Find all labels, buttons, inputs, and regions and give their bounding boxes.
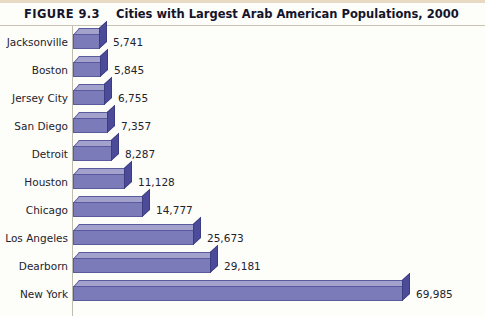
bar-value-label: 5,741 (113, 28, 143, 56)
bar-row: Chicago14,777 (0, 196, 485, 224)
bar-3d (73, 252, 211, 280)
figure-title: Cities with Largest Arab American Popula… (116, 7, 459, 21)
category-label: Jacksonville (0, 28, 68, 56)
bar-front-face (73, 34, 100, 49)
bar-row: New York69,985 (0, 280, 485, 308)
bar-3d (73, 196, 143, 224)
bar-front-face (73, 202, 143, 217)
category-label: New York (0, 280, 68, 308)
category-label: Dearborn (0, 252, 68, 280)
bar-value-label: 5,845 (114, 56, 144, 84)
bar-row: Los Angeles25,673 (0, 224, 485, 252)
bar-value-label: 29,181 (224, 252, 261, 280)
category-label: Boston (0, 56, 68, 84)
bar-row: Jacksonville5,741 (0, 28, 485, 56)
bar-value-label: 6,755 (118, 84, 148, 112)
category-label: Jersey City (0, 84, 68, 112)
bar-3d (73, 224, 194, 252)
bar-front-face (73, 286, 403, 301)
bar-value-label: 69,985 (416, 280, 453, 308)
figure-number: FIGURE 9.3 (24, 7, 100, 21)
chart-plot-area: Jacksonville5,741Boston5,845Jersey City6… (0, 26, 485, 316)
bar-3d (73, 280, 403, 308)
bar-front-face (73, 146, 112, 161)
bar-row: Dearborn29,181 (0, 252, 485, 280)
bar-row: Houston11,128 (0, 168, 485, 196)
bar-3d (73, 84, 105, 112)
bar-3d (73, 112, 108, 140)
category-label: Los Angeles (0, 224, 68, 252)
bar-front-face (73, 62, 101, 77)
bar-value-label: 11,128 (138, 168, 175, 196)
bar-front-face (73, 258, 211, 273)
bar-value-label: 25,673 (207, 224, 244, 252)
figure-container: FIGURE 9.3 Cities with Largest Arab Amer… (0, 0, 485, 316)
bar-3d (73, 28, 100, 56)
bar-front-face (73, 174, 125, 189)
bar-3d (73, 168, 125, 196)
category-label: Houston (0, 168, 68, 196)
category-label: Detroit (0, 140, 68, 168)
figure-header: FIGURE 9.3 Cities with Largest Arab Amer… (0, 3, 485, 25)
bar-row: Detroit8,287 (0, 140, 485, 168)
bar-side-face (99, 21, 107, 49)
bar-value-label: 14,777 (156, 196, 193, 224)
bar-row: Boston5,845 (0, 56, 485, 84)
bar-3d (73, 56, 101, 84)
bar-front-face (73, 90, 105, 105)
bar-row: San Diego7,357 (0, 112, 485, 140)
bar-value-label: 7,357 (121, 112, 151, 140)
category-label: San Diego (0, 112, 68, 140)
bar-row: Jersey City6,755 (0, 84, 485, 112)
bar-front-face (73, 118, 108, 133)
category-label: Chicago (0, 196, 68, 224)
bar-3d (73, 140, 112, 168)
bar-front-face (73, 230, 194, 245)
